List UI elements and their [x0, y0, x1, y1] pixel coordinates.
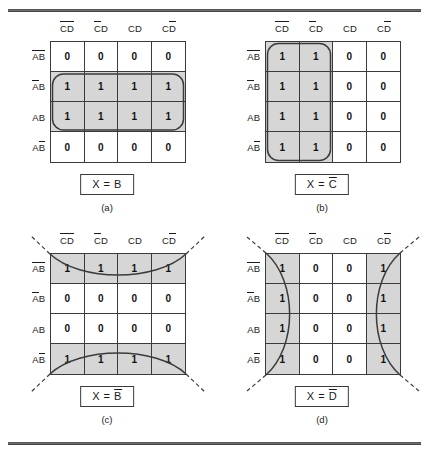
kmap-a: CDCDCDCDABABABAB0000111111110000: [24, 22, 190, 164]
col-label-overbar: C: [309, 22, 316, 36]
col-label-plain: C: [162, 23, 169, 34]
col-label-overbar: D: [282, 22, 289, 36]
column-header-0: CD: [50, 22, 84, 40]
column-header-0: CD: [265, 22, 299, 40]
kmap-cell: 0: [333, 314, 367, 344]
col-label-plain: C: [128, 23, 135, 34]
kmap-grid: 0000111111110000: [50, 41, 186, 163]
column-header-0: CD: [50, 234, 84, 252]
row-label-overbar: B: [254, 142, 260, 153]
row-header-3: AB: [24, 133, 48, 164]
kmap-cell: 1: [85, 72, 119, 102]
kmap-cell: 0: [333, 254, 367, 284]
kmap-cell: 1: [51, 72, 85, 102]
kmap-cell: 0: [367, 132, 401, 162]
result-lhs: X =: [92, 390, 114, 402]
row-header-0: AB: [239, 41, 263, 72]
column-header-2: CD: [118, 234, 152, 252]
panel-caption: (a): [101, 202, 113, 213]
row-header-1: AB: [239, 72, 263, 103]
column-header-3: CD: [152, 22, 186, 40]
row-header-column: ABABABAB: [24, 253, 48, 375]
kmap-cell: 1: [367, 284, 401, 314]
figure-top-rule: [8, 9, 421, 12]
kmap-cell: 1: [300, 102, 334, 132]
col-label-overbar: C: [94, 234, 101, 248]
row-header-3: AB: [24, 345, 48, 376]
row-label-overbar: B: [39, 51, 45, 62]
result-lhs: X =: [307, 178, 329, 190]
result-expression-box: X = B: [80, 174, 134, 195]
kmap-b: CDCDCDCDABABABAB1100110011001100: [239, 22, 405, 164]
col-label-plain: C: [343, 23, 350, 34]
kmap-cell: 0: [333, 42, 367, 72]
kmap-cell: 0: [300, 344, 334, 374]
kmap-cell: 1: [266, 132, 300, 162]
col-label-plain: D: [135, 23, 142, 34]
wrap-dash-bl: [247, 375, 266, 391]
kmap-cell: 0: [152, 132, 186, 162]
kmap-cell: 0: [51, 132, 85, 162]
row-header-3: AB: [239, 133, 263, 164]
kmap-cell: 0: [85, 42, 119, 72]
wrap-dash-br: [400, 375, 419, 391]
kmap-cell: 1: [367, 344, 401, 374]
kmap-grid: 1100110011001100: [265, 41, 401, 163]
row-label-overbar: A: [32, 293, 38, 304]
result-lhs: X =: [307, 390, 329, 402]
col-label-overbar: D: [384, 22, 391, 36]
kmap-cell: 0: [300, 284, 334, 314]
col-label-overbar: C: [94, 22, 101, 36]
col-label-overbar: C: [60, 22, 67, 36]
wrap-dash-tr: [400, 237, 419, 253]
row-label-overbar: B: [39, 354, 45, 365]
row-header-0: AB: [24, 253, 48, 284]
column-header-row: CDCDCDCD: [265, 22, 401, 40]
kmap-cell: 0: [300, 314, 334, 344]
row-header-1: AB: [24, 284, 48, 315]
row-header-3: AB: [239, 345, 263, 376]
row-label-plain: B: [254, 112, 260, 123]
row-header-2: AB: [239, 102, 263, 133]
col-label-overbar: D: [67, 22, 74, 36]
kmap-cell: 0: [300, 254, 334, 284]
kmap-cell: 1: [51, 254, 85, 284]
column-header-row: CDCDCDCD: [265, 234, 401, 252]
kmap-cell: 0: [152, 42, 186, 72]
column-header-1: CD: [299, 234, 333, 252]
wrap-dash-tl: [247, 237, 266, 253]
kmap-cell: 0: [333, 344, 367, 374]
col-label-plain: C: [377, 235, 384, 246]
row-label-plain: B: [39, 112, 45, 123]
result-variable: B: [114, 178, 122, 190]
kmap-cell: 1: [266, 284, 300, 314]
kmap-cell: 0: [367, 72, 401, 102]
kmap-cell: 1: [266, 314, 300, 344]
row-label-overbar: B: [254, 354, 260, 365]
col-label-plain: C: [162, 235, 169, 246]
kmap-cell: 0: [85, 132, 119, 162]
kmap-cell: 1: [85, 102, 119, 132]
row-header-2: AB: [24, 314, 48, 345]
result-variable: C: [329, 178, 337, 190]
col-label-overbar: D: [169, 234, 176, 248]
kmap-cell: 1: [300, 132, 334, 162]
column-header-1: CD: [84, 22, 118, 40]
kmap-cell: 0: [118, 314, 152, 344]
kmap-panel-b: CDCDCDCDABABABAB1100110011001100X = C(b): [215, 16, 429, 231]
kmap-cell: 0: [333, 284, 367, 314]
kmap-cell: 0: [333, 132, 367, 162]
column-header-3: CD: [152, 234, 186, 252]
kmap-cell: 1: [367, 314, 401, 344]
kmap-cell: 1: [266, 344, 300, 374]
row-header-1: AB: [239, 284, 263, 315]
wrap-dash-tr: [186, 236, 205, 254]
col-label-overbar: D: [169, 22, 176, 36]
kmap-cell: 1: [152, 72, 186, 102]
kmap-cell: 1: [300, 72, 334, 102]
kmap-cell: 0: [152, 314, 186, 344]
kmap-cell: 1: [118, 72, 152, 102]
result-lhs: X =: [92, 178, 114, 190]
row-header-2: AB: [24, 102, 48, 133]
col-label-overbar: D: [384, 234, 391, 248]
